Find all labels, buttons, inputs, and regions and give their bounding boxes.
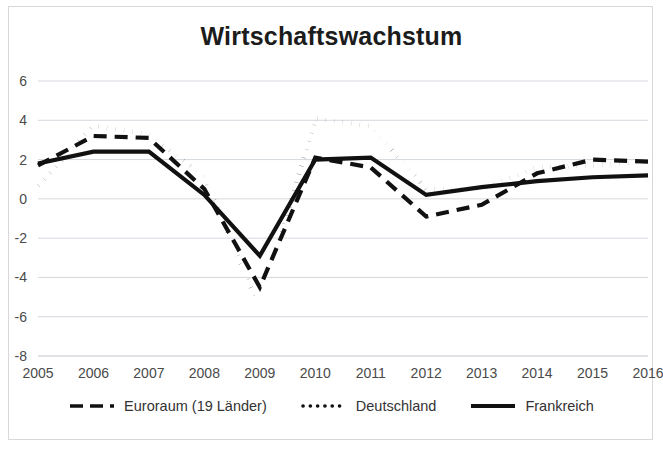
x-axis-tick-label: 2013 [466,365,497,381]
dash-swatch-icon [69,400,115,412]
chart-legend: Euroraum (19 Länder) Deutschland Frankre… [0,398,663,414]
y-axis-tick-label: 4 [19,112,27,128]
x-axis-tick-label: 2007 [133,365,164,381]
legend-label-frankreich: Frankreich [525,398,594,414]
y-axis-tick-label: 0 [19,191,27,207]
legend-item-euroraum[interactable]: Euroraum (19 Länder) [69,398,267,414]
x-axis-tick-label: 2005 [22,365,53,381]
y-axis-tick-label: -4 [15,269,28,285]
x-axis-tick-label: 2006 [78,365,109,381]
x-axis-tick-label: 2008 [189,365,220,381]
legend-label-deutschland: Deutschland [356,398,437,414]
x-axis-tick-label: 2009 [244,365,275,381]
x-axis-tick-label: 2011 [356,365,386,381]
x-axis-tick-label: 2012 [411,365,442,381]
y-axis-tick-label: 2 [19,152,27,168]
x-axis-tick-label: 2016 [632,365,663,381]
y-axis-tick-label: 6 [19,73,27,89]
y-axis-tick-label: -6 [15,309,28,325]
legend-item-frankreich[interactable]: Frankreich [470,398,594,414]
dot-swatch-icon [301,400,347,412]
x-axis-tick-label: 2010 [300,365,331,381]
x-axis-tick-label: 2014 [522,365,553,381]
legend-label-euroraum: Euroraum (19 Länder) [124,398,267,414]
x-axis-tick-label: 2015 [577,365,608,381]
series-line-dotted [38,118,648,309]
line-chart-plot: 6420-2-4-6-82005200620072008200920102011… [0,0,663,400]
y-axis-tick-label: -2 [15,230,28,246]
y-axis-tick-label: -8 [15,348,28,364]
solid-swatch-icon [470,400,516,412]
chart-page: Wirtschaftswachstum 6420-2-4-6-820052006… [0,0,663,449]
legend-item-deutschland[interactable]: Deutschland [301,398,437,414]
